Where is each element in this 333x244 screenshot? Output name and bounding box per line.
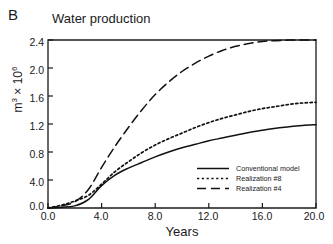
legend-label: Conventional model: [236, 164, 300, 173]
legend-label: Realization #4: [236, 184, 282, 193]
x-tick-marks: [48, 203, 316, 208]
legend: Conventional model Realization #8 Realiz…: [196, 163, 300, 193]
legend-key-dashed-icon: [196, 184, 230, 193]
y-tick-marks: [48, 40, 53, 208]
legend-key-dotted-icon: [196, 174, 230, 183]
legend-key-solid-icon: [196, 164, 230, 173]
legend-label: Realization #8: [236, 174, 282, 183]
figure-panel-b: B Water production m3 × 106 Years 2.4 2.…: [0, 0, 333, 244]
legend-item: Conventional model: [196, 163, 300, 173]
legend-item: Realization #4: [196, 183, 300, 193]
legend-item: Realization #8: [196, 173, 300, 183]
plot-area: [0, 0, 333, 244]
